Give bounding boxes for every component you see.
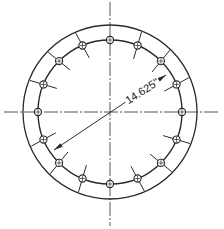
dimension-label: 14.625" [123,76,161,107]
bolt-pattern-diagram: 14.625" [0,0,224,229]
arrowhead-lower [54,143,63,150]
bolt-hole [79,175,86,182]
bolt-hole [40,81,47,88]
bolt-hole [173,81,180,88]
bolt-hole [40,136,47,143]
bolt-hole [55,57,62,64]
bolt-hole [106,36,113,43]
bolt-hole [134,42,141,49]
bolt-hole [178,108,185,115]
bolt-hole [173,136,180,143]
bolt-hole [34,108,41,115]
bolt-hole [134,175,141,182]
bolt-hole [157,57,164,64]
bolt-hole [79,42,86,49]
bolt-hole [157,159,164,166]
bolt-hole [55,159,62,166]
flange-drawing: 14.625" [0,0,224,229]
bolt-hole [106,180,113,187]
